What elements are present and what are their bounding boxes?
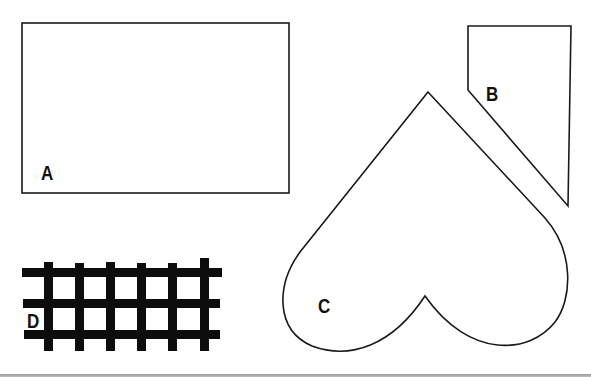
grid-bar-vertical [75,263,84,351]
shape-b-label: B [486,83,498,105]
shape-c-label: C [318,295,330,317]
grid-bar-horizontal [24,330,220,339]
grid-bar-vertical [137,263,146,351]
shape-a-label: A [41,162,53,184]
grid-bar-vertical [200,258,209,351]
grid-bar-vertical [168,263,177,351]
shapes-diagram: A B C D [0,0,591,378]
shape-d: D [22,258,222,351]
shape-a-rectangle [22,23,289,193]
bottom-rule [0,374,591,377]
grid-bar-vertical [106,262,115,351]
shape-d-label: D [27,310,39,332]
shape-a: A [22,23,289,193]
grid-bar-vertical [44,262,53,351]
